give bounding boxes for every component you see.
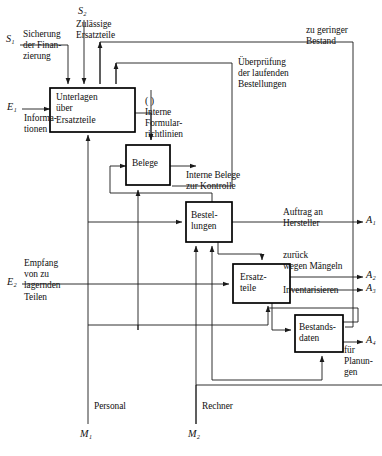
terminal-a3: A₃ [366, 282, 376, 293]
edge-label-zulaessige: Zulässige Ersatzteile [76, 19, 115, 41]
terminal-m2: M₂ [188, 428, 200, 439]
terminal-a4: A₄ [366, 334, 376, 345]
box-label-unterlagen: Unterlagen über Ersatzteile [56, 92, 98, 126]
terminal-s1: S₁ [6, 33, 15, 44]
edge-label-interne-formularrichtlinien: Interne Formular- richtlinien [145, 107, 183, 141]
terminal-m1: M₁ [80, 428, 92, 439]
terminal-e1: E₁ [7, 101, 17, 112]
box-label-bestellungen: Bestel- lungen [191, 210, 218, 233]
edge-label-auftrag-hersteller: Auftrag an Hersteller [283, 207, 323, 229]
edge-label-interne-belege: Interne Belege zur Kontrolle [186, 170, 240, 192]
edge-label-fuer-planungen: für Planun- gen [344, 345, 373, 379]
box-label-ersatzteile: Ersatz- teile [240, 272, 267, 295]
edge-label-rechner: Rechner [202, 401, 233, 412]
edge-ersatzteile-to-bestandsdaten [272, 303, 291, 330]
terminal-e2: E₂ [7, 276, 17, 287]
terminal-s2: S₂ [78, 5, 87, 16]
edge-label-personal: Personal [94, 401, 126, 412]
terminal-a1: A₁ [366, 214, 376, 225]
dataflow-diagram: Unterlagen über Ersatzteile Belege Beste… [0, 0, 382, 456]
edge-label-empfang: Empfang von zu lagernden Teilen [24, 258, 61, 303]
box-label-bestandsdaten: Bestands- daten [299, 322, 336, 345]
box-label-belege: Belege [132, 158, 158, 169]
edge-label-zurueck-maengeln: zurück wegen Mängeln [283, 250, 343, 272]
edge-bestandsdaten-bottom-feed [212, 356, 322, 380]
edge-label-sicherung: Sicherung der Finan- zierung [23, 29, 61, 63]
edge-label-inventarisieren: Inventarisieren [283, 285, 338, 296]
edge-label-empty-paren: ( ) [145, 95, 154, 106]
edge-bestellungen-to-ersatzteile [218, 242, 262, 260]
edge-label-ueberpruefung: Überprüfung der laufenden Bestellungen [238, 57, 289, 91]
edge-label-informationen: Informa- tionen [24, 113, 57, 135]
edge-label-zu-geringer-bestand: zu geringer Bestand [306, 25, 348, 47]
terminal-a2: A₂ [366, 269, 376, 280]
